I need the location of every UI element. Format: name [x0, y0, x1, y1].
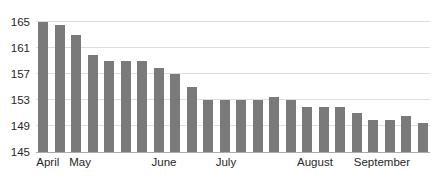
bar [418, 123, 428, 152]
bar [170, 74, 180, 152]
bar [154, 68, 164, 153]
bar [319, 107, 329, 153]
bar [385, 120, 395, 153]
x-tick-label: April [36, 156, 59, 168]
bar [401, 116, 411, 152]
bar [88, 55, 98, 153]
bar [71, 35, 81, 152]
bar [302, 107, 312, 153]
bar [286, 100, 296, 152]
y-tick-label: 161 [0, 41, 30, 55]
bar [187, 87, 197, 152]
x-tick-label: May [69, 156, 91, 168]
bar [203, 100, 213, 152]
gridline [36, 47, 430, 48]
bar [352, 113, 362, 152]
bar [104, 61, 114, 152]
bar [236, 100, 246, 152]
bar-chart: 145149153157161165 AprilMayJuneJulyAugus… [0, 0, 434, 186]
bar [368, 120, 378, 153]
y-tick-label: 149 [0, 119, 30, 133]
x-axis-line [36, 152, 430, 153]
x-tick-label: August [297, 156, 333, 168]
bar [269, 97, 279, 152]
x-tick-label: June [152, 156, 177, 168]
plot-area [36, 22, 430, 152]
x-tick-label: July [216, 156, 236, 168]
y-tick-label: 157 [0, 67, 30, 81]
bar [121, 61, 131, 152]
bar [55, 25, 65, 152]
bar [38, 22, 48, 152]
bar [220, 100, 230, 152]
y-tick-label: 165 [0, 15, 30, 29]
bar [137, 61, 147, 152]
y-tick-label: 145 [0, 145, 30, 159]
y-tick-label: 153 [0, 93, 30, 107]
bar [253, 100, 263, 152]
gridline [36, 21, 430, 22]
x-tick-label: September [354, 156, 410, 168]
bar [335, 107, 345, 153]
